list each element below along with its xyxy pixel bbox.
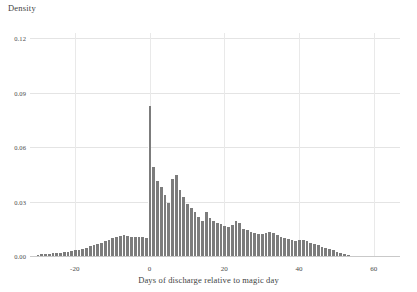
- x-tick-label: -20: [60, 265, 90, 273]
- plot-area: [30, 33, 400, 257]
- histogram-bars: [30, 33, 400, 257]
- y-tick-label: 0.03: [0, 199, 26, 206]
- y-axis-label: Density: [8, 3, 36, 13]
- y-tick-label: 0.09: [0, 90, 26, 97]
- x-tick-label: 20: [209, 265, 239, 273]
- density-histogram-figure: Density 0.000.030.060.090.12 -200204060 …: [0, 0, 417, 292]
- x-tick-label: 40: [284, 265, 314, 273]
- y-tick-label: 0.12: [0, 35, 26, 42]
- x-axis-label: Days of discharge relative to magic day: [0, 275, 417, 285]
- x-tick-label: 0: [135, 265, 165, 273]
- x-tick-label: 60: [359, 265, 389, 273]
- y-tick-label: 0.00: [0, 253, 26, 260]
- axis-baseline: [30, 256, 400, 257]
- y-tick-label: 0.06: [0, 144, 26, 151]
